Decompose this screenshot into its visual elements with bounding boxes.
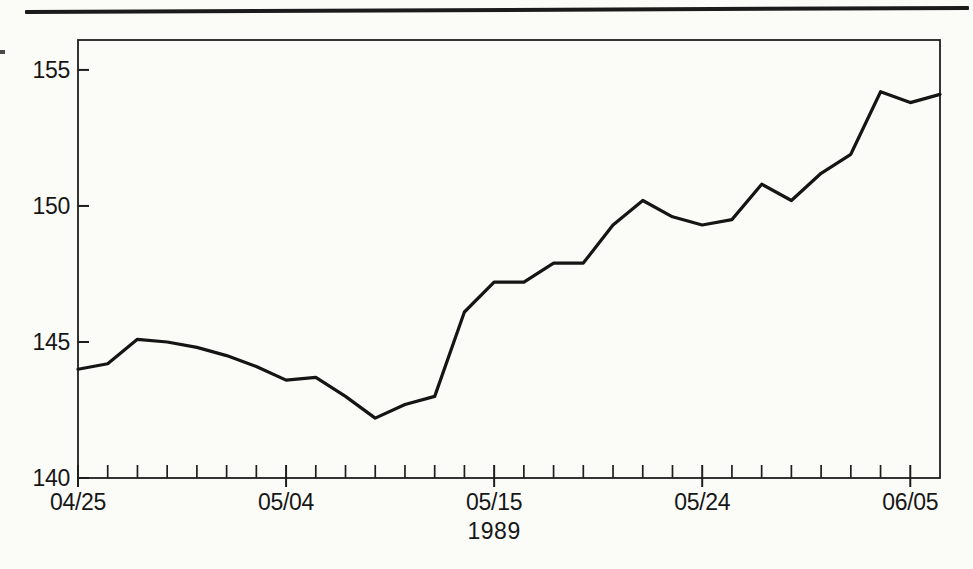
x-tick-label: 05/04	[241, 489, 331, 515]
series-line-daily-rate	[78, 92, 940, 418]
x-tick-label: 05/24	[657, 489, 747, 515]
y-tick-label: 155	[0, 57, 70, 83]
scanned-page: 14014515015504/2505/0405/1505/2406/05 19…	[0, 0, 973, 569]
x-tick-label: 04/25	[33, 489, 123, 515]
plot-area	[0, 0, 973, 569]
exchange-rate-line-chart: 14014515015504/2505/0405/1505/2406/05 19…	[0, 0, 973, 569]
plot-border	[78, 40, 940, 478]
x-tick-label: 05/15	[449, 489, 539, 515]
x-axis-year-label: 1989	[434, 518, 554, 544]
x-tick-label: 06/05	[865, 489, 955, 515]
y-tick-label: 145	[0, 329, 70, 355]
y-tick-label: 140	[0, 465, 70, 491]
y-tick-label: 150	[0, 193, 70, 219]
